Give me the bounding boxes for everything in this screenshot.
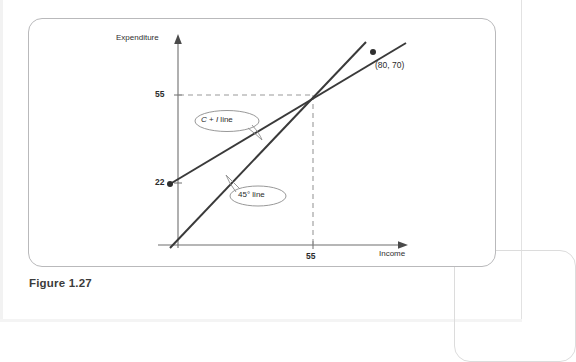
y-axis-tick-label-22: 22 xyxy=(155,177,164,187)
page-bottom-edge xyxy=(0,319,522,322)
point-coordinate-label: (80, 70) xyxy=(375,60,404,70)
callout-c-plus-i-label: C + I line xyxy=(201,115,233,124)
callout-ci-word: line xyxy=(218,115,233,124)
page-left-edge xyxy=(0,0,3,322)
figure-caption: Figure 1.27 xyxy=(29,277,92,289)
x-axis-tick-label-55: 55 xyxy=(306,251,315,261)
x-axis-label: Income xyxy=(379,249,405,258)
y-axis-label: Expenditure xyxy=(116,33,159,42)
callout-45-degree-label: 45° line xyxy=(238,190,265,199)
figure-panel xyxy=(28,18,496,267)
callout-ci-plus: + xyxy=(207,115,216,124)
y-axis-tick-label-55: 55 xyxy=(155,89,164,99)
